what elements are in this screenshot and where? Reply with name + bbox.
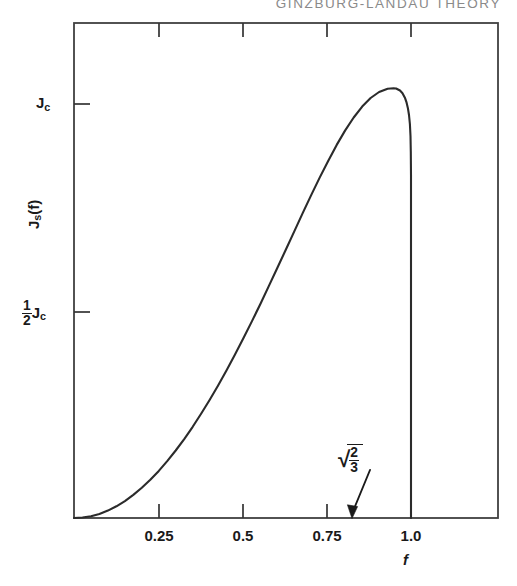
- half-fraction: 12: [22, 299, 32, 328]
- x-axis-ticks-top: [159, 23, 411, 37]
- y-tick-jc-subscript: c: [44, 101, 50, 113]
- two-thirds-fraction: 23: [349, 446, 359, 475]
- x-tick-label-1: 0.5: [215, 527, 271, 544]
- sqrt-annotation-arrow: [347, 470, 370, 519]
- sqrt-two-thirds-annotation: √23: [336, 444, 363, 475]
- y-axis-ticks: [74, 104, 90, 312]
- x-tick-label-2: 0.75: [297, 527, 357, 544]
- supercurrent-figure: Js(f) Jc 12Jc 0.25 0.5 0.75 1.0 f √23: [0, 0, 517, 586]
- y-axis-label-container: Js(f): [14, 175, 54, 265]
- y-tick-label-jc: Jc: [36, 94, 50, 113]
- two-thirds-denominator: 3: [349, 461, 359, 475]
- x-tick-label-0: 0.25: [129, 527, 189, 544]
- plot-frame: [74, 23, 498, 518]
- radicand: 23: [347, 444, 363, 475]
- half-fraction-numerator: 1: [22, 299, 32, 314]
- x-tick-label-3: 1.0: [383, 527, 439, 544]
- half-fraction-denominator: 2: [22, 314, 32, 328]
- y-tick-half-jc-base: J: [32, 304, 40, 321]
- y-axis-label-base: J: [25, 221, 42, 229]
- radical-group: √23: [336, 444, 363, 475]
- y-axis-label: Js(f): [25, 176, 44, 252]
- two-thirds-numerator: 2: [349, 446, 359, 461]
- plot-canvas: [0, 0, 517, 586]
- y-axis-label-subscript: s: [31, 215, 43, 221]
- x-axis-ticks-bottom: [159, 504, 411, 518]
- y-tick-label-half-jc: 12Jc: [22, 299, 46, 328]
- x-axis-label: f: [403, 551, 408, 568]
- figure-page: GINZBURG-LANDAU THEORY: [0, 0, 517, 586]
- y-tick-half-jc-subscript: c: [40, 310, 46, 322]
- y-axis-label-arg: (f): [25, 200, 42, 215]
